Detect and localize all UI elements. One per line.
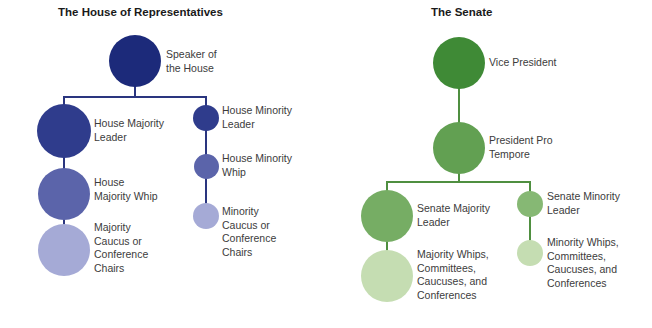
label-minority-caucus-chairs: Minority Caucus or Conference Chairs — [222, 205, 276, 259]
label-senate-majority-leader: Senate Majority Leader — [417, 202, 490, 229]
house-connector — [63, 96, 207, 98]
label-house-majority-whip: House Majority Whip — [94, 176, 158, 203]
node-senate-majority-leader — [361, 190, 413, 242]
node-house-majority-whip — [38, 168, 90, 220]
node-majority-caucus-chairs — [38, 224, 90, 276]
node-speaker-of-the-house — [109, 35, 161, 87]
label-vice-president: Vice President — [489, 56, 557, 70]
label-majority-caucus-chairs: Majority Caucus or Conference Chairs — [94, 221, 148, 275]
node-house-minority-leader — [193, 105, 219, 131]
node-house-minority-whip — [194, 154, 219, 179]
node-vice-president — [433, 37, 485, 89]
label-house-minority-leader: House Minority Leader — [222, 104, 292, 131]
label-house-majority-leader: House Majority Leader — [94, 117, 164, 144]
node-minority-caucus-chairs — [193, 203, 219, 229]
label-speaker-of-the-house: Speaker of the House — [166, 48, 217, 75]
label-majority-whips-committees: Majority Whips, Committees, Caucuses, an… — [417, 248, 489, 302]
senate-connector — [386, 181, 531, 183]
label-house-minority-whip: House Minority Whip — [222, 152, 292, 179]
node-majority-whips-committees — [361, 250, 413, 302]
node-house-majority-leader — [37, 104, 91, 158]
node-minority-whips-committees — [517, 240, 543, 266]
senate-title: The Senate — [431, 6, 492, 18]
label-senate-minority-leader: Senate Minority Leader — [547, 190, 620, 217]
node-senate-minority-leader — [517, 191, 543, 217]
label-minority-whips-committees: Minority Whips, Committees, Caucuses, an… — [547, 236, 619, 290]
house-title: The House of Representatives — [58, 6, 223, 18]
label-president-pro-tempore: President Pro Tempore — [489, 134, 553, 161]
node-president-pro-tempore — [433, 122, 485, 174]
